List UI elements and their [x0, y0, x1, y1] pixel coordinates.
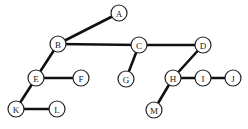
node-c: C	[131, 37, 147, 53]
nodes-layer: ABCDEFGHIJKLM	[8, 5, 241, 118]
node-label: G	[123, 75, 130, 85]
node-label: E	[33, 74, 39, 84]
node-label: I	[202, 74, 205, 84]
node-label: L	[54, 105, 60, 115]
edge-b-c	[58, 44, 139, 45]
node-j: J	[225, 70, 241, 86]
tree-diagram-canvas: ABCDEFGHIJKLM	[0, 0, 248, 129]
tree-diagram: ABCDEFGHIJKLM	[0, 0, 248, 129]
node-g: G	[118, 71, 134, 87]
node-k: K	[8, 101, 24, 117]
node-e: E	[28, 70, 44, 86]
node-label: B	[55, 40, 61, 50]
node-label: C	[136, 41, 142, 51]
node-label: A	[116, 9, 123, 19]
node-i: I	[195, 70, 211, 86]
node-l: L	[49, 101, 65, 117]
edge-a-b	[58, 13, 119, 44]
node-b: B	[50, 36, 66, 52]
node-label: K	[13, 105, 20, 115]
node-f: F	[73, 70, 89, 86]
node-a: A	[111, 5, 127, 21]
node-d: D	[195, 37, 211, 53]
node-label: J	[231, 74, 235, 84]
edges-layer	[16, 13, 233, 110]
node-label: H	[170, 74, 177, 84]
node-label: M	[150, 106, 158, 116]
node-h: H	[165, 70, 181, 86]
node-m: M	[146, 102, 162, 118]
node-label: F	[78, 74, 83, 84]
node-label: D	[200, 41, 207, 51]
